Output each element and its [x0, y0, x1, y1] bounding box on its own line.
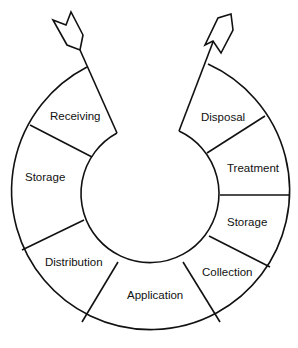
segment-label-storage-right: Storage	[227, 216, 267, 228]
segment-label-collection: Collection	[202, 266, 253, 278]
segment-label-receiving: Receiving	[50, 110, 101, 122]
divider-collection-storage	[209, 236, 270, 267]
segment-label-distribution: Distribution	[45, 256, 103, 268]
divider-receiving-storage	[30, 125, 92, 157]
inbound-arrow-icon	[53, 12, 83, 50]
divider-storage-distribution	[22, 220, 84, 250]
outbound-arrow-icon	[205, 14, 233, 53]
segment-label-treatment: Treatment	[227, 162, 280, 174]
inner-ring-arc	[81, 131, 219, 263]
divider-distribution-application	[82, 262, 118, 322]
segment-label-disposal: Disposal	[201, 111, 245, 123]
lifecycle-ring-diagram: Receiving Storage Distribution Applicati…	[0, 0, 298, 348]
segment-label-storage-left: Storage	[25, 171, 65, 183]
segment-label-application: Application	[127, 289, 183, 301]
